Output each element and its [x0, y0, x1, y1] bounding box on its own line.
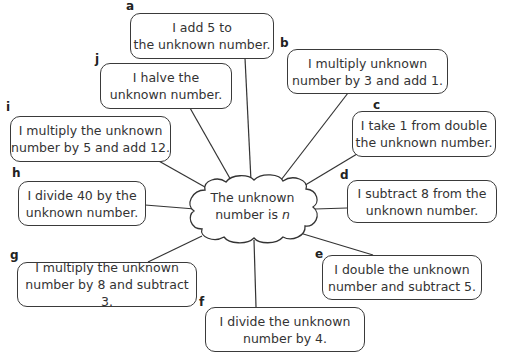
label-f: f	[199, 295, 204, 309]
statement-box-g: I multiply the unknown number by 8 and s…	[17, 262, 197, 307]
label-h: h	[12, 166, 21, 180]
center-cloud: The unknown number is n	[195, 189, 310, 223]
label-d: d	[340, 168, 349, 182]
statement-box-c: I take 1 from double the unknown number.	[352, 111, 496, 157]
statement-box-h: I divide 40 by the unknown number.	[18, 181, 146, 226]
statement-f-line-2: number by 4.	[243, 330, 327, 347]
statement-box-d: I subtract 8 from the unknown number.	[347, 180, 497, 223]
statement-c-line-1: I take 1 from double	[361, 117, 487, 134]
statement-d-line-2: unknown number.	[366, 202, 478, 219]
center-line-2: number is n	[195, 206, 310, 223]
statement-g-line-1: I multiply the unknown	[35, 259, 179, 276]
statement-h-line-2: unknown number.	[26, 204, 138, 221]
statement-i-line-1: I multiply the unknown	[19, 122, 163, 139]
label-c: c	[373, 98, 380, 112]
statement-i-line-2: number by 5 and add 12.	[11, 139, 170, 156]
statement-box-f: I divide the unknown number by 4.	[205, 307, 365, 352]
label-i: i	[6, 100, 10, 114]
variable-n: n	[282, 207, 290, 222]
statement-j-line-1: I halve the	[133, 69, 199, 86]
statement-box-a: I add 5 to the unknown number.	[130, 13, 274, 59]
label-b: b	[280, 36, 289, 50]
statement-e-line-1: I double the unknown	[334, 261, 470, 278]
statement-e-line-2: number and subtract 5.	[328, 278, 476, 295]
statement-j-line-2: unknown number.	[110, 86, 222, 103]
statement-b-line-2: number by 3 and add 1.	[292, 72, 443, 89]
statement-h-line-1: I divide 40 by the	[27, 187, 136, 204]
statement-b-line-1: I multiply unknown	[308, 55, 427, 72]
label-g: g	[10, 248, 19, 262]
statement-g-line-2: number by 8 and subtract 3.	[18, 276, 196, 310]
label-a: a	[126, 0, 134, 13]
statement-box-j: I halve the unknown number.	[100, 63, 232, 109]
statement-box-i: I multiply the unknown number by 5 and a…	[10, 116, 171, 162]
center-line-1: The unknown	[195, 189, 310, 206]
label-e: e	[315, 247, 323, 261]
statement-box-b: I multiply unknown number by 3 and add 1…	[287, 49, 448, 94]
statement-f-line-1: I divide the unknown	[220, 313, 351, 330]
statement-d-line-1: I subtract 8 from the	[358, 185, 487, 202]
statement-a-line-2: the unknown number.	[134, 36, 271, 53]
statement-box-e: I double the unknown number and subtract…	[322, 255, 482, 300]
label-j: j	[95, 52, 99, 66]
statement-a-line-1: I add 5 to	[172, 19, 232, 36]
statement-c-line-2: the unknown number.	[356, 134, 493, 151]
